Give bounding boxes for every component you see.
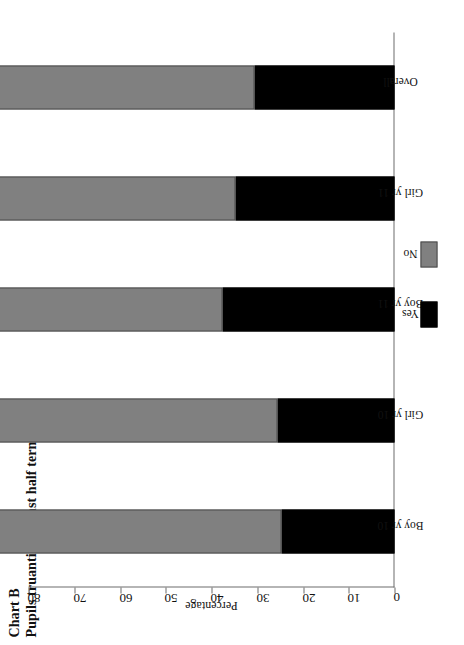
legend-item-yes[interactable]: Yes	[404, 301, 437, 327]
bar-group: 37.762.3Boy yr 11	[28, 254, 394, 365]
plot-area: 01020304050607080 Percentage 24.675.4Boy…	[28, 32, 394, 587]
bar-group: 25.574.5Girl yr 10	[28, 365, 394, 476]
value-axis-tick-label: 70	[73, 589, 86, 605]
value-axis-tick: 60	[120, 587, 121, 593]
value-axis-tick: 50	[165, 587, 166, 593]
value-axis-tick: 0	[394, 587, 395, 593]
bar-no[interactable]: 69.5	[0, 66, 254, 110]
value-axis-tick: 10	[348, 587, 349, 593]
value-axis-tick-label: 50	[164, 589, 177, 605]
legend-swatch	[420, 301, 437, 327]
legend-label: Yes	[402, 308, 419, 320]
bar-yes[interactable]: 30.5	[254, 66, 394, 110]
value-axis-tick-label: 80	[27, 589, 40, 605]
value-axis-title: Percentage	[185, 597, 238, 612]
value-axis-tick: 40	[211, 587, 212, 593]
bar-yes[interactable]: 37.7	[222, 288, 394, 332]
legend-swatch	[420, 241, 437, 267]
value-axis-tick: 70	[74, 587, 75, 593]
category-label: Girl yr 11	[378, 187, 423, 199]
value-axis-tick: 80	[28, 587, 29, 593]
bar-group: 24.675.4Boy yr 10	[28, 476, 394, 587]
category-label: Boy yr 10	[377, 520, 423, 532]
bar-yes[interactable]: 25.5	[277, 399, 394, 443]
bar-no[interactable]: 74.5	[0, 399, 277, 443]
chart-legend: YesNo	[404, 241, 437, 327]
bar-no[interactable]: 65.2	[0, 177, 235, 221]
bar-group: 34.865.2Girl yr 11	[28, 143, 394, 254]
value-axis-tick: 30	[257, 587, 258, 593]
legend-label: No	[403, 248, 417, 260]
value-axis-tick-label: 20	[302, 589, 315, 605]
category-label: Overall	[383, 76, 417, 88]
legend-item-no[interactable]: No	[404, 241, 437, 267]
value-axis-tick: 20	[303, 587, 304, 593]
value-axis-tick-label: 0	[393, 589, 400, 605]
bar-no[interactable]: 75.4	[0, 510, 281, 554]
bar-yes[interactable]: 34.8	[235, 177, 394, 221]
bar-no[interactable]: 62.3	[0, 288, 222, 332]
value-axis-tick-label: 10	[347, 589, 360, 605]
chart-canvas: Chart B Pupils truanting in last half te…	[0, 0, 464, 645]
bar-group: 30.569.5Overall	[28, 32, 394, 143]
value-axis-tick-label: 60	[119, 589, 132, 605]
value-axis-tick-label: 30	[256, 589, 269, 605]
category-label: Girl yr 10	[377, 409, 422, 421]
bar-yes[interactable]: 24.6	[281, 510, 394, 554]
